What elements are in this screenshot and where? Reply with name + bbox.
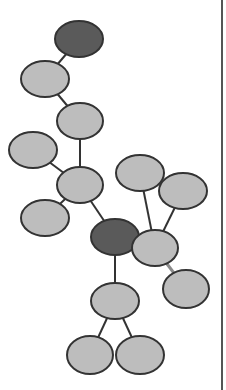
node-8 [159,173,207,209]
node-6 [21,200,69,236]
node-13 [67,336,113,374]
node-3 [57,103,103,139]
node-5 [57,167,103,203]
node-7 [116,155,164,191]
node-14 [116,336,164,374]
node-layer [9,21,209,374]
node-1-dark [55,21,103,57]
node-12 [91,283,139,319]
node-4 [9,132,57,168]
node-10 [132,230,178,266]
tree-diagram [0,0,226,390]
node-2 [21,61,69,97]
node-11 [163,270,209,308]
